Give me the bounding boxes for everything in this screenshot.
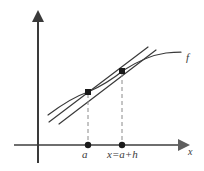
curve-point-a-marker xyxy=(85,89,91,95)
secant-line xyxy=(59,50,156,124)
calculus-secant-tangent-figure: a x=a+h x f xyxy=(0,0,204,171)
figure-canvas xyxy=(0,0,204,171)
tick-label-x-equals-a-plus-h: x=a+h xyxy=(107,149,138,160)
function-curve-f xyxy=(48,52,181,115)
curve-label-f: f xyxy=(186,52,189,63)
tick-label-a: a xyxy=(82,149,88,160)
curve-point-a-plus-h-marker xyxy=(119,68,125,74)
tangent-line xyxy=(49,47,148,122)
x-axis-label: x xyxy=(188,147,192,157)
